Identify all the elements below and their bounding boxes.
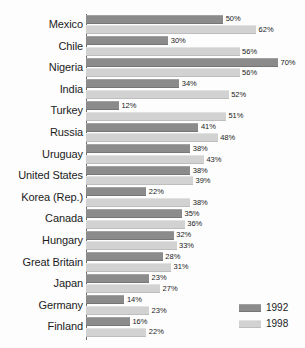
bar-line: 32% xyxy=(86,231,191,240)
category-label: Canada xyxy=(0,213,86,225)
bar-value-label: 32% xyxy=(174,231,192,239)
bar-value-label: 38% xyxy=(190,145,208,153)
bar-value-label: 23% xyxy=(149,274,167,282)
bar-1992 xyxy=(86,295,124,304)
chart-rows: Mexico50%62%Chile30%56%Nigeria70%56%Indi… xyxy=(0,14,305,338)
bar-1998 xyxy=(86,284,160,293)
bar-1992 xyxy=(86,79,179,88)
bar-value-label: 22% xyxy=(146,328,164,336)
bar-line: 22% xyxy=(86,187,164,196)
bar-line: 12% xyxy=(86,101,136,110)
bar-1998 xyxy=(86,68,240,77)
bar-line: 39% xyxy=(86,176,210,185)
bar-group: 38%39% xyxy=(86,165,305,187)
bar-line: 48% xyxy=(86,133,235,142)
bar-1992 xyxy=(86,58,278,67)
category-label: United States xyxy=(0,170,86,182)
bar-line: 62% xyxy=(86,25,274,34)
bar-line: 23% xyxy=(86,274,167,283)
bar-value-label: 39% xyxy=(193,177,211,185)
chart-row: Turkey12%51% xyxy=(0,100,305,122)
legend-label: 1998 xyxy=(261,319,288,329)
bar-1998 xyxy=(86,133,218,142)
category-label: Chile xyxy=(0,41,86,53)
bar-chart: Mexico50%62%Chile30%56%Nigeria70%56%Indi… xyxy=(0,0,305,348)
bar-1992 xyxy=(86,209,182,218)
bar-value-label: 36% xyxy=(185,220,203,228)
bar-value-label: 14% xyxy=(124,296,142,304)
bar-value-label: 70% xyxy=(278,59,296,67)
bar-line: 14% xyxy=(86,295,142,304)
chart-row: Japan23%27% xyxy=(0,273,305,295)
bar-line: 38% xyxy=(86,144,208,153)
bar-value-label: 56% xyxy=(240,48,258,56)
chart-row: Uruguay38%43% xyxy=(0,144,305,166)
bar-line: 16% xyxy=(86,317,147,326)
bar-line: 51% xyxy=(86,112,243,121)
bar-1992 xyxy=(86,317,130,326)
bar-1992 xyxy=(86,231,174,240)
category-label: Finland xyxy=(0,321,86,333)
chart-row: Mexico50%62% xyxy=(0,14,305,36)
bar-1992 xyxy=(86,252,163,261)
category-label: Hungary xyxy=(0,235,86,247)
bar-line: 38% xyxy=(86,198,208,207)
bar-group: 30%56% xyxy=(86,36,305,58)
legend-item: 1992 xyxy=(239,301,288,314)
bar-1998 xyxy=(86,112,226,121)
bar-value-label: 30% xyxy=(168,37,186,45)
bar-line: 33% xyxy=(86,241,194,250)
bar-value-label: 34% xyxy=(179,80,197,88)
bar-value-label: 50% xyxy=(223,15,241,23)
bar-value-label: 31% xyxy=(171,263,189,271)
bar-1998 xyxy=(86,241,177,250)
legend-swatch xyxy=(239,304,261,312)
bar-line: 50% xyxy=(86,15,241,24)
category-label: Nigeria xyxy=(0,62,86,74)
bar-group: 41%48% xyxy=(86,122,305,144)
bar-1998 xyxy=(86,198,190,207)
bar-group: 12%51% xyxy=(86,100,305,122)
category-label: Uruguay xyxy=(0,149,86,161)
bar-value-label: 23% xyxy=(149,307,167,315)
category-label: Turkey xyxy=(0,105,86,117)
bar-value-label: 38% xyxy=(190,167,208,175)
bar-line: 28% xyxy=(86,252,180,261)
bar-line: 36% xyxy=(86,220,202,229)
bar-1998 xyxy=(86,90,229,99)
legend-swatch xyxy=(239,320,261,328)
bar-1998 xyxy=(86,25,256,34)
bar-1998 xyxy=(86,220,185,229)
bar-line: 38% xyxy=(86,166,208,175)
bar-value-label: 52% xyxy=(229,91,247,99)
bar-value-label: 12% xyxy=(119,102,137,110)
bar-value-label: 41% xyxy=(198,123,216,131)
bar-1992 xyxy=(86,274,149,283)
bar-line: 34% xyxy=(86,79,197,88)
bar-value-label: 38% xyxy=(190,199,208,207)
bar-group: 32%33% xyxy=(86,230,305,252)
bar-value-label: 33% xyxy=(177,242,195,250)
category-label: India xyxy=(0,84,86,96)
bar-value-label: 48% xyxy=(218,134,236,142)
bar-group: 50%62% xyxy=(86,14,305,36)
bar-line: 31% xyxy=(86,263,189,272)
bar-1998 xyxy=(86,47,240,56)
bar-group: 22%38% xyxy=(86,187,305,209)
category-label: Russia xyxy=(0,127,86,139)
bar-1998 xyxy=(86,306,149,315)
category-label: Japan xyxy=(0,278,86,290)
category-label: Great Britain xyxy=(0,257,86,269)
chart-row: Hungary32%33% xyxy=(0,230,305,252)
chart-row: Russia41%48% xyxy=(0,122,305,144)
category-label: Germany xyxy=(0,300,86,312)
bar-value-label: 51% xyxy=(226,112,244,120)
bar-group: 23%27% xyxy=(86,273,305,295)
bar-value-label: 27% xyxy=(160,285,178,293)
bar-line: 22% xyxy=(86,328,164,337)
legend-item: 1998 xyxy=(239,317,288,330)
bar-1992 xyxy=(86,187,146,196)
bar-1992 xyxy=(86,166,190,175)
bar-1998 xyxy=(86,176,193,185)
bar-value-label: 16% xyxy=(130,318,148,326)
